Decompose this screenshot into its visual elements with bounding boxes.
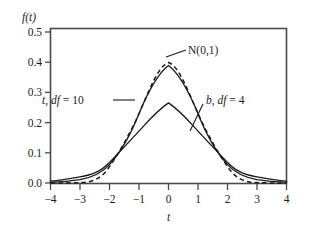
x-axis-title: t bbox=[167, 211, 171, 223]
y-tick-label-0.3: 0.3 bbox=[28, 86, 43, 98]
annotation-b-equals: = bbox=[226, 94, 238, 106]
x-tick-label-1: 1 bbox=[195, 193, 201, 205]
x-tick-label-3: 3 bbox=[254, 193, 260, 205]
figure-container: 0.5 0.4 0.3 0.2 0.1 0.0 f(t) −4 −3 −2 −1… bbox=[0, 0, 311, 234]
x-tick-label-0: 0 bbox=[166, 193, 172, 205]
annotation-t-equals: = bbox=[60, 94, 72, 106]
annotation-t-df-10: t, df = 10 bbox=[42, 94, 84, 107]
y-axis-title: f(t) bbox=[22, 11, 36, 24]
x-axis-ticks bbox=[51, 184, 287, 191]
x-tick-label-2: 2 bbox=[225, 193, 231, 205]
annotation-t-value: 10 bbox=[72, 94, 84, 106]
x-tick-label--1: −1 bbox=[133, 193, 145, 205]
annotation-normal: N(0,1) bbox=[188, 44, 219, 57]
y-tick-label-0.5: 0.5 bbox=[28, 26, 43, 38]
plot-frame bbox=[51, 29, 287, 184]
x-tick-label--4: −4 bbox=[44, 193, 56, 205]
x-tick-label--3: −3 bbox=[74, 193, 86, 205]
x-tick-label-4: 4 bbox=[284, 193, 290, 205]
curve-t-df-10 bbox=[51, 66, 287, 183]
curve-b-df-4 bbox=[51, 103, 287, 181]
leader-line-normal bbox=[166, 50, 186, 57]
annotation-b-value: 4 bbox=[239, 94, 245, 106]
y-tick-label-0.1: 0.1 bbox=[28, 147, 43, 159]
y-axis-ticks bbox=[45, 32, 51, 183]
chart-canvas: 0.5 0.4 0.3 0.2 0.1 0.0 f(t) −4 −3 −2 −1… bbox=[0, 0, 311, 234]
y-tick-label-0.2: 0.2 bbox=[28, 117, 43, 129]
y-tick-label-0.4: 0.4 bbox=[28, 56, 43, 68]
leader-line-b4 bbox=[190, 104, 203, 131]
y-tick-label-0.0: 0.0 bbox=[28, 177, 43, 189]
annotation-b-df-4: b, df = 4 bbox=[206, 94, 245, 107]
x-tick-label--2: −2 bbox=[103, 193, 115, 205]
curve-normal-0-1 bbox=[51, 63, 287, 184]
